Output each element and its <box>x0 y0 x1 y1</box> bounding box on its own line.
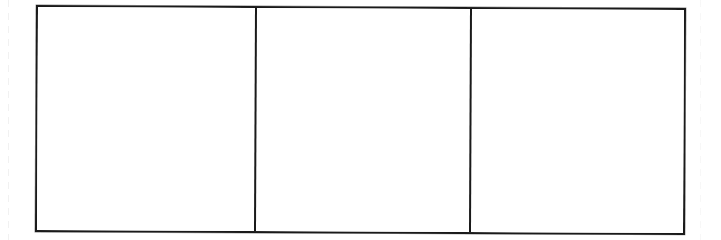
table-rotation-wrapper <box>0 0 721 240</box>
table-cell-1-text <box>37 7 255 231</box>
scanned-page <box>0 0 721 240</box>
table-cell-2-text <box>256 8 470 232</box>
table-cell-1[interactable] <box>37 7 255 231</box>
table-cell-3-text <box>471 9 684 233</box>
ruled-table <box>35 5 686 235</box>
table-cell-3[interactable] <box>469 9 684 233</box>
table-cell-2[interactable] <box>254 8 470 232</box>
